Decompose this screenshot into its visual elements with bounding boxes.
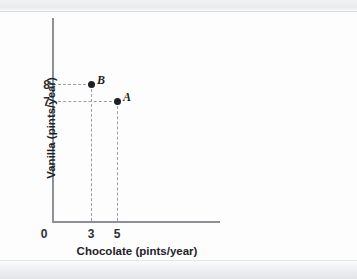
data-point-b bbox=[88, 81, 95, 88]
page-bottom-shading bbox=[0, 261, 357, 279]
chart-page: B A 8 7 0 3 5 Chocolate (pints/year) Van… bbox=[0, 0, 357, 279]
data-point-a bbox=[114, 98, 121, 105]
data-point-label-a: A bbox=[123, 91, 131, 103]
guide-line-vertical-b bbox=[91, 84, 92, 221]
guide-line-horizontal-a bbox=[53, 101, 117, 102]
guide-line-vertical-a bbox=[117, 101, 118, 221]
y-axis-title: Vanilla (pints/year) bbox=[45, 33, 57, 223]
x-tick-label-3: 3 bbox=[84, 228, 98, 240]
x-axis-title: Chocolate (pints/year) bbox=[52, 245, 222, 257]
scatter-plot: B A 8 7 0 3 5 Chocolate (pints/year) Van… bbox=[0, 0, 357, 279]
x-axis-line bbox=[52, 221, 220, 223]
data-point-label-b: B bbox=[97, 74, 105, 86]
x-tick-label-5: 5 bbox=[110, 228, 124, 240]
guide-line-horizontal-b bbox=[53, 84, 91, 85]
x-tick-label-0: 0 bbox=[37, 228, 51, 240]
